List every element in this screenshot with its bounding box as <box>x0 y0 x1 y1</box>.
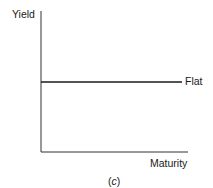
y-axis-label: Yield <box>12 8 35 20</box>
x-axis-label: Maturity <box>150 157 187 169</box>
figure-caption: (c) <box>108 175 120 187</box>
caption-close-paren: ) <box>117 175 121 187</box>
series-label-flat: Flat <box>185 75 203 87</box>
